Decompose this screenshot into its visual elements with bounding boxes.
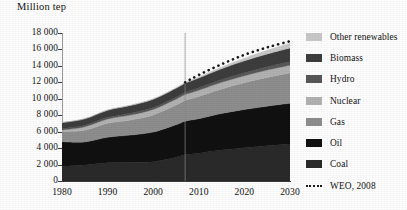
x-axis-line: [62, 181, 291, 182]
legend-item-label: Gas: [330, 117, 345, 127]
x-tick-label: 2020: [235, 186, 255, 197]
y-tick-label: 4 000: [37, 142, 58, 152]
legend-item-label: WEO, 2008: [330, 181, 376, 191]
x-tick-label: 1980: [52, 186, 72, 197]
legend-item[interactable]: Gas: [306, 111, 404, 132]
plot-area: [62, 33, 290, 181]
x-tick-label: 1990: [98, 186, 118, 197]
y-axis-caption: Million tep: [17, 1, 66, 12]
legend-item[interactable]: Nuclear: [306, 90, 404, 111]
chart-figure: Million tep 02 0004 0006 0008 00010 0001…: [0, 0, 407, 210]
legend-swatch-icon: [306, 185, 322, 187]
stacked-area-plot: [62, 33, 290, 181]
y-tick-label: 16 000: [32, 43, 58, 53]
legend-swatch-icon: [306, 97, 322, 105]
x-tick-label: 2010: [189, 186, 209, 197]
legend-item[interactable]: Coal: [306, 154, 404, 175]
legend-item[interactable]: Oil: [306, 132, 404, 153]
y-tick-label: 12 000: [32, 76, 58, 86]
legend-item-label: Nuclear: [330, 96, 360, 106]
y-tick-label: 10 000: [32, 93, 58, 103]
y-tick-label: 14 000: [32, 60, 58, 70]
y-tick-mark: [58, 181, 62, 182]
legend-item[interactable]: WEO, 2008: [306, 175, 404, 196]
x-tick-label: 2030: [280, 186, 300, 197]
legend-item-label: Biomass: [330, 53, 363, 63]
y-tick-label: 2 000: [37, 159, 58, 169]
y-tick-label: 18 000: [32, 27, 58, 37]
legend-item[interactable]: Hydro: [306, 69, 404, 90]
chart-legend: Other renewablesBiomassHydroNuclearGasOi…: [306, 26, 404, 196]
legend-swatch-icon: [306, 54, 322, 62]
legend-swatch-icon: [306, 33, 322, 41]
legend-item-label: Oil: [330, 138, 342, 148]
legend-item[interactable]: Biomass: [306, 47, 404, 68]
y-tick-label: 8 000: [37, 109, 58, 119]
legend-swatch-icon: [306, 118, 322, 126]
legend-swatch-icon: [306, 160, 322, 168]
legend-item-label: Coal: [330, 159, 348, 169]
legend-swatch-icon: [306, 75, 322, 83]
legend-item-label: Hydro: [330, 74, 354, 84]
x-tick-label: 2000: [143, 186, 163, 197]
legend-swatch-icon: [306, 139, 322, 147]
y-tick-label: 6 000: [37, 126, 58, 136]
legend-item-label: Other renewables: [330, 32, 397, 42]
legend-item[interactable]: Other renewables: [306, 26, 404, 47]
y-tick-label: 0: [53, 175, 58, 185]
